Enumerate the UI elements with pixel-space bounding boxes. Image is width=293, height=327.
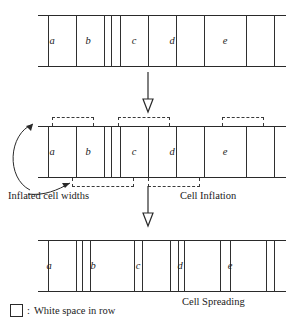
spread-row — [38, 240, 286, 292]
legend-white-space: : White space in row — [10, 304, 115, 317]
cell-label: e — [228, 261, 233, 272]
curved-callout-upper — [13, 124, 33, 190]
bracket-bar — [72, 186, 134, 187]
caption-inflated-cell-widths: Inflated cell widths — [8, 190, 89, 201]
inflated-width-bracket-e — [222, 117, 264, 126]
cell-divider — [246, 126, 247, 178]
bracket-bar — [148, 186, 200, 187]
cell-divider — [76, 240, 77, 292]
cell-divider — [120, 15, 121, 67]
cell-divider — [120, 126, 121, 178]
figure-canvas: Inflated cell widths Cell Inflation Cell… — [0, 0, 293, 327]
bracket-tick-right — [169, 117, 170, 126]
bracket-bar — [222, 117, 264, 118]
cell-label: a — [49, 36, 54, 47]
cell-divider — [220, 240, 221, 292]
bracket-tick-right — [93, 117, 94, 126]
original-row — [38, 15, 286, 67]
inflated-width-bracket-d — [148, 178, 200, 187]
cell-label: a — [49, 147, 54, 158]
inflated-width-bracket-a — [52, 117, 94, 126]
cell-divider — [246, 15, 247, 67]
cell-label: b — [85, 147, 90, 158]
bracket-tick-left — [148, 178, 149, 187]
bracket-bar — [52, 117, 94, 118]
cell-label: c — [136, 261, 141, 272]
bracket-tick-left — [118, 117, 119, 126]
bracket-tick-left — [72, 178, 73, 187]
cell-divider — [111, 126, 112, 178]
cell-divider — [274, 15, 275, 67]
cell-divider — [274, 240, 275, 292]
inflated-row — [38, 126, 286, 178]
down-arrow-inflation — [143, 72, 153, 112]
white-space-swatch-icon — [10, 304, 23, 317]
bracket-tick-left — [222, 117, 223, 126]
cell-label: c — [132, 147, 137, 158]
legend-separator: : — [27, 305, 30, 316]
cell-label: c — [132, 36, 137, 47]
cell-divider — [266, 240, 267, 292]
cell-label: a — [46, 261, 51, 272]
cell-divider — [184, 240, 185, 292]
cell-label: b — [90, 261, 95, 272]
cell-divider — [104, 126, 105, 178]
cell-divider — [204, 126, 205, 178]
cell-label: d — [169, 147, 174, 158]
cell-label: d — [169, 36, 174, 47]
bracket-tick-right — [263, 117, 264, 126]
cell-divider — [274, 126, 275, 178]
cell-divider — [111, 15, 112, 67]
cell-divider — [176, 15, 177, 67]
cell-divider — [104, 15, 105, 67]
cell-divider — [76, 15, 77, 67]
cell-divider — [148, 126, 149, 178]
caption-cell-inflation: Cell Inflation — [180, 190, 236, 201]
inflated-width-bracket-b — [72, 178, 134, 187]
down-arrow-spreading — [143, 186, 153, 226]
cell-divider — [148, 15, 149, 67]
cell-divider — [142, 240, 143, 292]
cell-label: e — [223, 36, 228, 47]
cell-divider — [204, 15, 205, 67]
cell-divider — [76, 126, 77, 178]
caption-cell-spreading: Cell Spreading — [182, 296, 245, 307]
legend-label: White space in row — [34, 305, 115, 316]
bracket-tick-right — [199, 178, 200, 187]
cell-label: b — [85, 36, 90, 47]
cell-label: d — [177, 261, 182, 272]
bracket-bar — [118, 117, 170, 118]
bracket-tick-right — [133, 178, 134, 187]
cell-divider — [170, 240, 171, 292]
cell-label: e — [223, 147, 228, 158]
cell-divider — [82, 240, 83, 292]
cell-divider — [176, 126, 177, 178]
inflated-width-bracket-c — [118, 117, 170, 126]
bracket-tick-left — [52, 117, 53, 126]
